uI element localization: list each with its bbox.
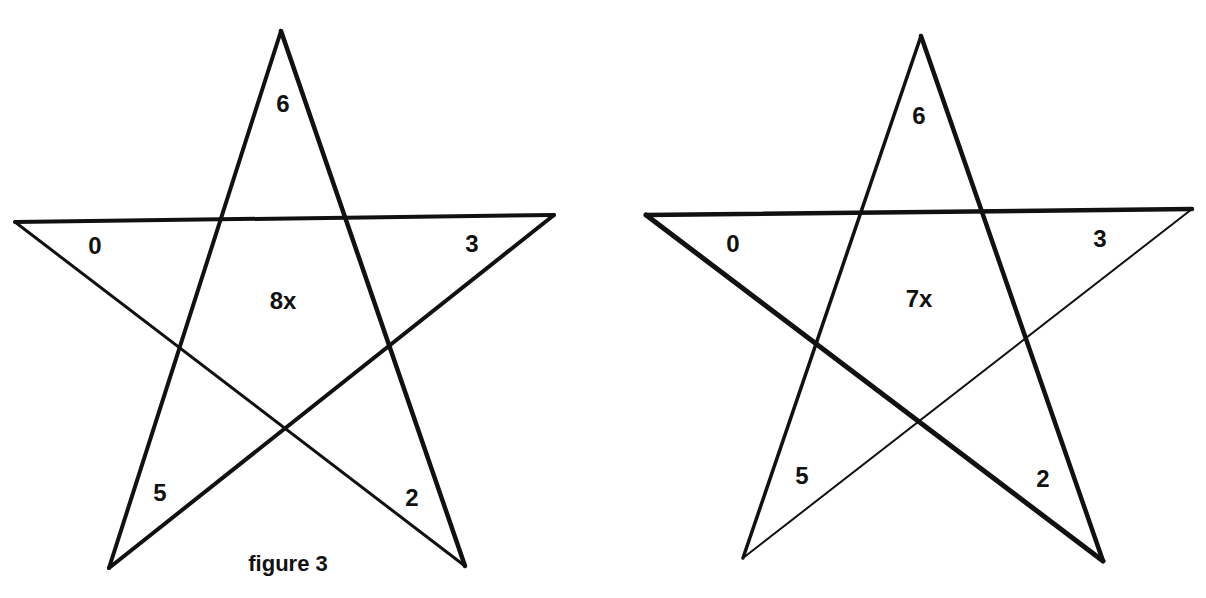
left-star: 6 0 3 5 2 8x — [15, 31, 554, 568]
left-star-label-center: 8x — [270, 287, 297, 314]
right-star-label-right: 3 — [1093, 225, 1106, 252]
right-star-label-center: 7x — [906, 285, 933, 312]
left-star-edge-left-to-right — [15, 215, 554, 222]
right-star-edge-left-to-bottom-right — [646, 215, 1103, 561]
left-star-edge-bottom-left-to-right — [109, 215, 554, 568]
left-star-label-bottom-right: 2 — [405, 484, 418, 511]
left-star-label-right: 3 — [465, 230, 478, 257]
right-star-edge-bottom-left-to-right — [743, 209, 1192, 558]
right-star-label-bottom-left: 5 — [795, 462, 808, 489]
right-star-label-left: 0 — [726, 230, 739, 257]
left-star-edge-top-to-bottom-left — [109, 31, 281, 568]
figure-canvas: 6 0 3 5 2 8x 6 0 3 5 2 7x figure 3 — [0, 0, 1206, 598]
left-star-label-left: 0 — [88, 232, 101, 259]
left-star-label-top: 6 — [276, 90, 289, 117]
right-star-label-bottom-right: 2 — [1036, 465, 1049, 492]
left-star-edge-top-to-bottom-right — [281, 31, 465, 566]
right-star-edge-left-to-right — [646, 209, 1192, 215]
right-star: 6 0 3 5 2 7x — [646, 36, 1192, 561]
left-star-edge-left-to-bottom-right — [15, 222, 465, 566]
figure-caption: figure 3 — [248, 551, 327, 576]
left-star-label-bottom-left: 5 — [153, 479, 166, 506]
right-star-edge-top-to-bottom-left — [743, 36, 921, 558]
right-star-label-top: 6 — [912, 102, 925, 129]
